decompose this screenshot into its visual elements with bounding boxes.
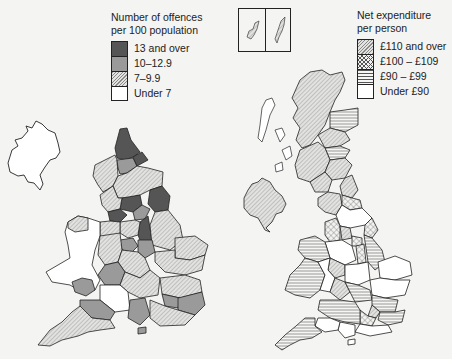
offences-legend-title: Number of offences per 100 population [111,11,202,37]
legend-item-100-109: £100 – £109 [357,54,446,69]
legend-label: £100 – £109 [380,55,438,68]
legend-item-under-7: Under 7 [111,86,202,101]
mid-grey-swatch-icon [111,56,128,71]
horizontal-lines-swatch-icon [357,69,374,84]
legend-title-line2: per person [357,22,446,35]
legend-label: £90 – £99 [380,70,427,83]
right-map-great-britain [275,70,412,350]
legend-label: Under 7 [134,87,171,100]
right-map-western-isles [258,98,292,172]
legend-item-7-9-9: 7–9.9 [111,71,202,86]
diagonal-hatch-swatch-icon [357,39,374,54]
offences-legend: Number of offences per 100 population 13… [111,11,202,101]
white-swatch-icon [111,86,128,101]
legend-title-line1: Number of offences [111,11,202,24]
expenditure-legend: Net expenditure per person £110 and over… [357,9,446,99]
legend-label: 10–12.9 [134,57,172,70]
legend-item-90-99: £90 – £99 [357,69,446,84]
right-map-northern-ireland [244,178,286,232]
left-map-england-wales [38,128,208,346]
diagonal-hatch-swatch-icon [111,71,128,86]
legend-item-110-and-over: £110 and over [357,39,446,54]
legend-item-13-and-over: 13 and over [111,41,202,56]
legend-label: Under £90 [380,85,429,98]
cross-hatch-swatch-icon [357,54,374,69]
legend-label: £110 and over [380,40,446,53]
legend-title-line1: Net expenditure [357,9,446,22]
white-swatch-icon [357,84,374,99]
dark-grey-swatch-icon [111,41,128,56]
legend-title-line2: per 100 population [111,24,202,37]
legend-item-10-12-9: 10–12.9 [111,56,202,71]
islands-icon [239,9,292,53]
orkney-shetland-inset [238,8,291,52]
legend-label: 13 and over [134,42,189,55]
legend-item-under-90: Under £90 [357,84,446,99]
expenditure-legend-title: Net expenditure per person [357,9,446,35]
legend-label: 7–9.9 [134,72,160,85]
left-map-northern-ireland [8,121,60,190]
